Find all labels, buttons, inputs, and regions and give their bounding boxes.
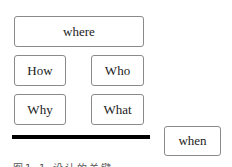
box-why-label: Why <box>27 102 52 118</box>
box-where: where <box>14 16 144 47</box>
box-why: Why <box>14 94 66 125</box>
box-when: when <box>164 126 221 156</box>
box-how: How <box>14 55 66 86</box>
divider-bar <box>12 135 150 139</box>
box-who: Who <box>91 55 144 86</box>
box-when-label: when <box>178 133 206 149</box>
box-where-label: where <box>63 24 95 40</box>
box-who-label: Who <box>105 63 130 79</box>
box-what-label: What <box>103 102 131 118</box>
figure-caption: 图1-1 设计的关键 <box>13 160 113 167</box>
box-what: What <box>91 94 144 125</box>
box-how-label: How <box>27 63 52 79</box>
